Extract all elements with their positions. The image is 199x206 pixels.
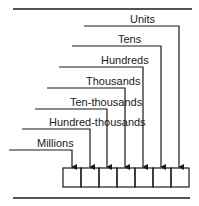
place-label: Units: [130, 13, 156, 25]
digit-box: [135, 168, 153, 187]
digit-boxes: [63, 168, 189, 187]
digit-box: [153, 168, 171, 187]
digit-box: [171, 168, 189, 187]
place-ten-thousands: Ten-thousands: [35, 96, 143, 167]
digit-box: [117, 168, 135, 187]
place-label: Tens: [118, 33, 142, 45]
digit-box: [63, 168, 81, 187]
place-label: Thousands: [86, 75, 141, 87]
place-millions: Millions: [9, 137, 74, 167]
place-label: Hundreds: [101, 54, 149, 66]
place-value-diagram: UnitsTensHundredsThousandsTen-thousandsH…: [0, 0, 199, 206]
place-label: Hundred-thousands: [49, 116, 146, 128]
place-label: Ten-thousands: [70, 96, 143, 108]
place-label: Millions: [37, 137, 74, 149]
digit-box: [99, 168, 117, 187]
arrow-connector: [9, 150, 72, 167]
digit-box: [81, 168, 99, 187]
